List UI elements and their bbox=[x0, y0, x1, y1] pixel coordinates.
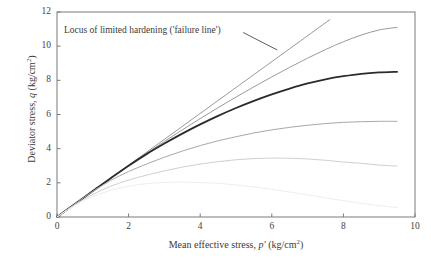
y-axis-title: Deviator stress, q (kg/cm2) bbox=[27, 14, 37, 204]
x-tick-label: 6 bbox=[260, 222, 284, 232]
x-axis-title-prefix: Mean effective stress, bbox=[169, 239, 259, 250]
y-axis-units: (kg/cm bbox=[26, 62, 37, 93]
annotation-leader-line bbox=[243, 33, 277, 50]
x-tick-label: 2 bbox=[117, 222, 141, 232]
series-layer bbox=[57, 20, 397, 217]
y-axis-symbol: q bbox=[26, 93, 37, 98]
x-axis-suffix: ) bbox=[300, 239, 303, 250]
y-axis-exponent: 2 bbox=[25, 59, 32, 62]
x-axis-symbol: p′ bbox=[259, 239, 266, 250]
failure-line-annotation-label: Locus of limited hardening ('failure lin… bbox=[64, 26, 221, 36]
y-tick-label: 0 bbox=[29, 212, 51, 222]
annotation-leader bbox=[243, 33, 277, 50]
x-tick-label: 8 bbox=[331, 222, 355, 232]
x-tick-label: 4 bbox=[188, 222, 212, 232]
y-axis-title-prefix: Deviator stress, bbox=[26, 98, 37, 163]
y-axis-suffix: ) bbox=[26, 55, 37, 58]
x-axis-title: Mean effective stress, p′ (kg/cm2) bbox=[57, 240, 415, 250]
x-tick-label: 0 bbox=[45, 222, 69, 232]
chart-figure: 0246810120246810 Locus of limited harden… bbox=[0, 0, 431, 265]
series-hardening-curve-3 bbox=[57, 121, 397, 217]
x-tick-label: 10 bbox=[403, 222, 427, 232]
x-axis-units: (kg/cm bbox=[266, 239, 297, 250]
series-hardening-curve-4 bbox=[57, 158, 397, 217]
